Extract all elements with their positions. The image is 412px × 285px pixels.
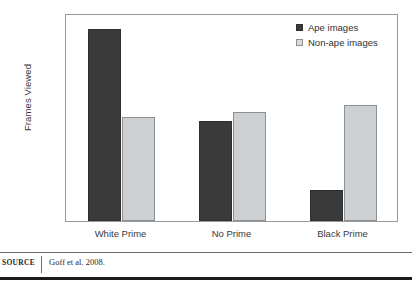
chart-legend: Ape imagesNon-ape images	[296, 21, 378, 51]
legend-item-non-ape-images: Non-ape images	[296, 36, 378, 49]
legend-swatch-icon	[296, 39, 303, 46]
bar-white-prime-non-ape-images	[122, 117, 155, 221]
legend-label: Ape images	[308, 22, 358, 33]
bar-black-prime-ape-images	[310, 190, 343, 221]
source-block: SOURCE Goff et al. 2008.	[2, 256, 105, 274]
legend-label: Non-ape images	[308, 37, 378, 48]
bar-white-prime-ape-images	[88, 29, 121, 221]
legend-swatch-icon	[296, 24, 303, 31]
x-axis-label-black-prime: Black Prime	[288, 228, 398, 239]
source-rule-top	[0, 252, 412, 253]
bar-black-prime-non-ape-images	[344, 105, 377, 221]
x-axis-label-white-prime: White Prime	[66, 228, 176, 239]
source-divider	[41, 256, 42, 273]
x-axis-label-no-prime: No Prime	[177, 228, 287, 239]
legend-item-ape-images: Ape images	[296, 21, 378, 34]
bar-no-prime-non-ape-images	[233, 112, 266, 221]
figure-container: Frames Viewed 192021222324252627 White P…	[0, 0, 412, 285]
source-label: SOURCE	[2, 256, 35, 267]
bar-no-prime-ape-images	[199, 121, 232, 221]
source-rule-bottom	[0, 277, 412, 280]
y-axis-title: Frames Viewed	[22, 38, 33, 158]
source-citation-text: Goff et al. 2008.	[49, 256, 105, 267]
